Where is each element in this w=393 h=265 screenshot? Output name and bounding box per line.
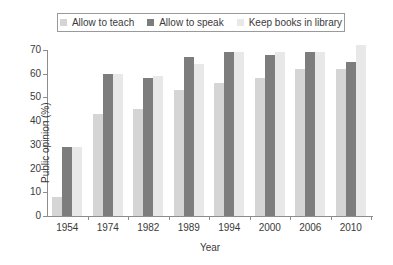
bar[interactable] [295, 69, 305, 216]
x-axis-tick-label: 1974 [97, 223, 119, 233]
legend-label: Keep books in library [249, 17, 342, 28]
bar[interactable] [224, 52, 234, 216]
x-axis-line [47, 216, 373, 217]
bar-group: 1989 [169, 50, 210, 216]
chart-legend: Allow to teachAllow to speakKeep books i… [57, 13, 345, 32]
y-axis-tick-label: 0 [35, 211, 41, 221]
y-axis-title: Public opinion (%) [41, 102, 51, 183]
x-axis-tick [88, 216, 89, 220]
bar-group: 1954 [47, 50, 88, 216]
bar-group-bars [209, 50, 250, 216]
legend-swatch-icon [147, 19, 154, 26]
bar-group-bars [290, 50, 331, 216]
bar[interactable] [184, 57, 194, 216]
bar[interactable] [174, 90, 184, 216]
bar-group-bars [47, 50, 88, 216]
x-axis-tick [169, 216, 170, 220]
x-axis-tick [128, 216, 129, 220]
bar[interactable] [113, 74, 123, 216]
bar[interactable] [72, 147, 82, 216]
x-axis-tick-label: 2000 [259, 223, 281, 233]
y-axis-tick-label: 60 [30, 69, 41, 79]
x-axis-tick-label: 2010 [340, 223, 362, 233]
x-axis-tick [331, 216, 332, 220]
legend-label: Allow to speak [159, 17, 223, 28]
bar[interactable] [62, 147, 72, 216]
bar[interactable] [265, 55, 275, 216]
bar-group-bars [128, 50, 169, 216]
bar[interactable] [305, 52, 315, 216]
bar[interactable] [153, 76, 163, 216]
bar[interactable] [346, 62, 356, 216]
y-axis-tick-label: 70 [30, 45, 41, 55]
x-axis-tick [290, 216, 291, 220]
x-axis-tick-label: 2006 [299, 223, 321, 233]
legend-entry[interactable]: Allow to teach [60, 17, 134, 28]
x-axis-tick-label: 1994 [218, 223, 240, 233]
x-axis-title: Year [47, 243, 373, 253]
bar-group: 1982 [128, 50, 169, 216]
x-axis-tick [371, 216, 372, 220]
bar-group: 2000 [250, 50, 291, 216]
x-axis-tick [209, 216, 210, 220]
legend-entry[interactable]: Allow to speak [147, 17, 223, 28]
bar-groups: 19541974198219891994200020062010 [47, 50, 371, 216]
bar[interactable] [52, 197, 62, 216]
bar-group: 2006 [290, 50, 331, 216]
x-axis-tick [250, 216, 251, 220]
bar[interactable] [336, 69, 346, 216]
bar-group: 1974 [88, 50, 129, 216]
legend-entry[interactable]: Keep books in library [237, 17, 342, 28]
y-axis-tick-label: 10 [30, 187, 41, 197]
bar[interactable] [194, 64, 204, 216]
bar-group-bars [88, 50, 129, 216]
bar[interactable] [234, 52, 244, 216]
plot-area: 010203040506070 195419741982198919942000… [47, 50, 371, 216]
x-axis-tick-label: 1982 [137, 223, 159, 233]
legend-swatch-icon [237, 19, 244, 26]
bar-group: 2010 [331, 50, 372, 216]
bar[interactable] [255, 78, 265, 216]
legend-label: Allow to teach [72, 17, 134, 28]
bar[interactable] [103, 74, 113, 216]
bar[interactable] [356, 45, 366, 216]
bar[interactable] [143, 78, 153, 216]
bar-chart-figure: Allow to teachAllow to speakKeep books i… [0, 0, 393, 265]
y-axis-tick [43, 216, 47, 217]
bar[interactable] [93, 114, 103, 216]
bar[interactable] [275, 52, 285, 216]
bar-group: 1994 [209, 50, 250, 216]
bar[interactable] [133, 109, 143, 216]
x-axis-tick-label: 1989 [178, 223, 200, 233]
bar[interactable] [315, 52, 325, 216]
legend-swatch-icon [60, 19, 67, 26]
bar-group-bars [169, 50, 210, 216]
y-axis-tick-label: 50 [30, 92, 41, 102]
bar-group-bars [250, 50, 291, 216]
bar[interactable] [214, 83, 224, 216]
bar-group-bars [331, 50, 372, 216]
x-axis-tick-label: 1954 [56, 223, 78, 233]
